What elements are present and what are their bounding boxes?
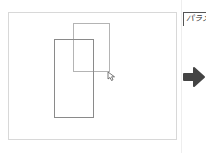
original-rectangle[interactable]	[54, 39, 94, 118]
pointer-cursor-icon	[107, 71, 116, 81]
parameter-label: パラメ	[183, 12, 206, 26]
arrow-right-icon	[182, 64, 206, 90]
